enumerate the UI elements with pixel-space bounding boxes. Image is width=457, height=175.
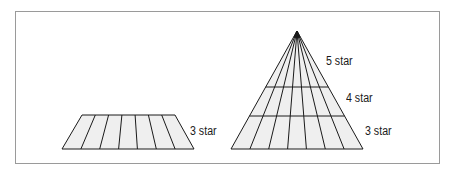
left-trapezoid bbox=[62, 115, 194, 149]
pyramid-tier-label-4-star: 4 star bbox=[346, 92, 373, 105]
right-pyramid bbox=[231, 31, 363, 149]
left-tier-label-3-star: 3 star bbox=[190, 125, 217, 138]
pyramid-tier-label-3-star: 3 star bbox=[365, 125, 392, 138]
diagram-canvas bbox=[0, 0, 457, 175]
pyramid-tier-label-5-star: 5 star bbox=[326, 55, 353, 68]
